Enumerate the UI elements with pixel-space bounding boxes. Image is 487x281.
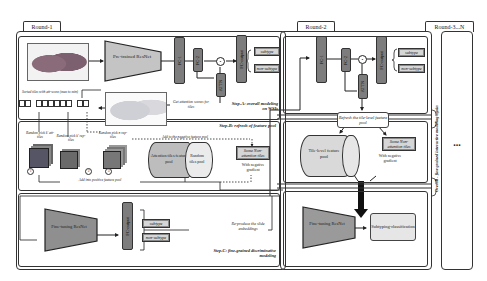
attn-layer: ATTN: [216, 73, 226, 97]
ellipsis: ...: [448, 140, 466, 146]
negative-gradient-text: With negative gradient: [236, 163, 270, 172]
round2-negative-gradient-text: With negative gradient: [372, 154, 408, 163]
fc2-label: FC-2: [344, 55, 349, 64]
round2-multiply-icon: •: [358, 55, 367, 64]
subtyping-classification-box: Subtyping-classification: [370, 213, 416, 241]
subtype-label-step-c: subtype: [142, 219, 170, 228]
add-positive-text: Add into positive feature pool: [60, 178, 140, 184]
round2-non-attention-box: Some Non-attention tiles: [382, 137, 416, 151]
fc1-layer: FC-1: [174, 37, 185, 84]
round2-fc1-layer: FC-1: [316, 36, 327, 83]
get-attention-text: Get attention scores for tiles: [170, 100, 212, 109]
fc-output-layer: FC-output: [236, 35, 247, 83]
circle-3: 3: [105, 168, 112, 175]
pick-rep-tiles-text: Random pick k' rep-tiles: [56, 134, 86, 142]
subtype-label: subtype: [254, 47, 280, 56]
wsi-thumbnail: [27, 43, 89, 81]
att-tiles-stack: [29, 148, 49, 168]
fc1-label: FC-1: [177, 56, 182, 65]
fc-output-layer-step-c: FC-output: [122, 202, 133, 250]
pretrained-resnet-label: Pre-trained ResNet: [107, 54, 157, 60]
fc-output-label: FC-output: [239, 50, 244, 69]
pick-n-rep-tiles-text: Random pick n rep-tiles: [98, 131, 128, 139]
fc2-label: FC-2: [196, 55, 201, 64]
add-negative-text: Add to the negative feature pool: [150, 135, 220, 141]
attention-heatmap: [105, 92, 167, 126]
fc-output-label: FC-output: [379, 51, 384, 70]
round2-fc2-layer: FC-2: [341, 48, 351, 72]
sorted-tiles-text: Sorted tiles with att-score (max to min): [20, 90, 80, 94]
step-b-label: Step-B: refresh of feature pool: [180, 123, 276, 129]
non-subtype-label-step-c: non-subtype: [142, 233, 170, 242]
random-pool-label: Random tiles pool: [187, 153, 207, 164]
round-3-n-panel: [441, 31, 473, 270]
attn-label: ATTN: [219, 79, 224, 91]
attention-pool-label: Attention tiles feature pool: [150, 153, 188, 164]
n-rep-tiles-stack: [103, 151, 121, 169]
round2-finetuning-resnet-shape: [302, 206, 356, 249]
fc-output-label: FC-output: [125, 217, 130, 236]
non-subtype-label: non-subtype: [254, 64, 280, 73]
multiply-icon: •: [216, 57, 225, 66]
tile-pool-cylinder-cap: [342, 135, 360, 177]
refresh-pool-box: Refresh the tile-level feature pool: [337, 112, 389, 128]
fc2-layer: FC-2: [193, 48, 203, 72]
round2-subtype-label: subtype: [398, 48, 425, 57]
non-attention-tiles-box: Some Non-attention tiles: [236, 146, 270, 160]
rep-tiles-stack: [60, 151, 78, 169]
round2-finetuning-label: Fine-tuning ResNet: [304, 221, 350, 227]
vertical-label: Overall - fine grained interactive model…: [434, 79, 440, 219]
step-c-label: Step-C: fine-grained discriminative mode…: [200, 248, 276, 258]
circle-2: 2: [85, 168, 92, 175]
attn-label: ATTN: [361, 81, 366, 93]
round2-non-subtype-label: non-subtype: [398, 64, 425, 73]
step-a-label: Step-A: overall modeling on WSIs: [228, 101, 278, 111]
finetuning-resnet-shape: [44, 208, 98, 252]
circle-1: 1: [27, 168, 34, 175]
pick-att-tiles-text: Random pick k' att-tiles: [25, 131, 55, 139]
sorted-tiles-row: [19, 100, 104, 110]
finetuning-resnet-label: Fine-tuning ResNet: [46, 224, 92, 230]
fc1-label: FC-1: [319, 55, 324, 64]
round2-fc-output-layer: FC-output: [376, 36, 387, 84]
reproduce-embeddings-text: Re-produce the slide embeddings: [228, 222, 268, 232]
tile-pool-label: Tile-level feature pool: [304, 148, 344, 159]
round2-attn-layer: ATTN: [358, 74, 368, 99]
pretrained-resnet-shape: [104, 40, 162, 82]
